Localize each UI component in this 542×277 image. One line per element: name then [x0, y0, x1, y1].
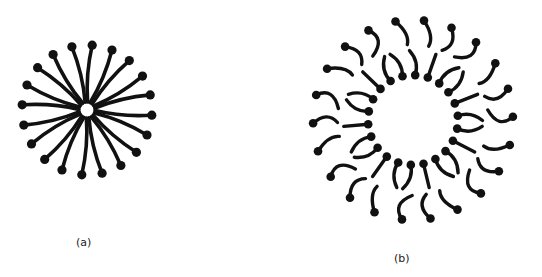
hydrophilic-head — [88, 41, 97, 50]
outer-leaflet-head — [491, 59, 500, 68]
outer-leaflet-head — [398, 215, 407, 224]
panel-label-b: (b) — [394, 252, 410, 265]
inner-leaflet-head — [435, 79, 444, 88]
hydrophilic-head — [107, 45, 116, 54]
inner-leaflet-head — [369, 95, 378, 104]
inner-leaflet-head — [453, 124, 462, 133]
hydrophobic-tail — [90, 50, 112, 103]
inner-leaflet-head — [376, 85, 385, 94]
hydrophilic-head — [116, 161, 125, 170]
hydrophilic-head — [138, 72, 147, 81]
figure: (a) (b) — [0, 0, 542, 277]
hydrophilic-head — [40, 155, 49, 164]
inner-leaflet-head — [394, 158, 403, 167]
hydrophilic-head — [67, 42, 76, 51]
outer-leaflet-head — [420, 16, 429, 25]
outer-leaflet-head — [314, 147, 323, 156]
hydrophilic-head — [19, 121, 28, 130]
hydrophilic-head — [33, 63, 42, 72]
outer-leaflet-head — [326, 173, 335, 182]
hydrophobic-tail — [82, 118, 87, 175]
hydrophilic-head — [142, 130, 151, 139]
outer-leaflet-head — [509, 112, 518, 121]
hydrophilic-head — [22, 80, 31, 89]
hydrophilic-head — [146, 90, 155, 99]
outer-leaflet-head — [346, 193, 355, 202]
outer-leaflet-head — [364, 26, 373, 35]
outer-leaflet-head — [426, 214, 435, 223]
hydrophobic-tail — [87, 45, 92, 102]
inner-leaflet-head — [383, 152, 392, 161]
inner-leaflet-head — [454, 112, 463, 121]
inner-leaflet-head — [398, 72, 407, 81]
outer-leaflet-head — [477, 189, 486, 198]
hydrophilic-head — [98, 169, 107, 178]
hydrophilic-head — [18, 100, 27, 109]
micelle-diagram — [18, 41, 157, 180]
inner-leaflet-head — [431, 155, 440, 164]
outer-leaflet-head — [323, 64, 332, 73]
hydrophilic-head — [27, 139, 36, 148]
inner-leaflet-head — [407, 161, 416, 170]
outer-leaflet-head — [495, 167, 504, 176]
hydrophilic-head — [132, 148, 141, 157]
inner-leaflet-head — [386, 77, 395, 86]
hydrophobic-tail — [62, 117, 84, 170]
inner-leaflet-head — [444, 88, 453, 97]
hydrophilic-head — [57, 165, 66, 174]
panel-label-a: (a) — [76, 236, 91, 249]
inner-leaflet-head — [373, 143, 382, 152]
inner-leaflet-head — [365, 107, 374, 116]
outer-leaflet-head — [504, 84, 513, 93]
outer-leaflet-head — [312, 91, 321, 100]
outer-leaflet-head — [370, 208, 379, 217]
outer-leaflet-head — [309, 119, 318, 128]
inner-leaflet-head — [451, 99, 460, 108]
outer-leaflet-head — [447, 23, 456, 32]
hydrophilic-head — [49, 50, 58, 59]
outer-leaflet-head — [506, 141, 515, 150]
inner-leaflet-head — [441, 147, 450, 156]
outer-leaflet-head — [341, 42, 350, 51]
hydrophilic-head — [77, 170, 86, 179]
inner-leaflet-head — [364, 120, 373, 129]
vesicle-diagram — [309, 16, 517, 223]
inner-leaflet-head — [411, 71, 420, 80]
outer-leaflet-head — [472, 38, 481, 47]
inner-leaflet-head — [424, 73, 433, 82]
micelle-core — [81, 104, 93, 116]
outer-leaflet-head — [453, 205, 462, 214]
hydrophilic-head — [125, 56, 134, 65]
outer-leaflet-head — [391, 17, 400, 26]
inner-leaflet-head — [419, 160, 428, 169]
hydrophilic-head — [147, 111, 156, 120]
inner-leaflet-head — [367, 132, 376, 141]
inner-leaflet-head — [449, 136, 458, 145]
